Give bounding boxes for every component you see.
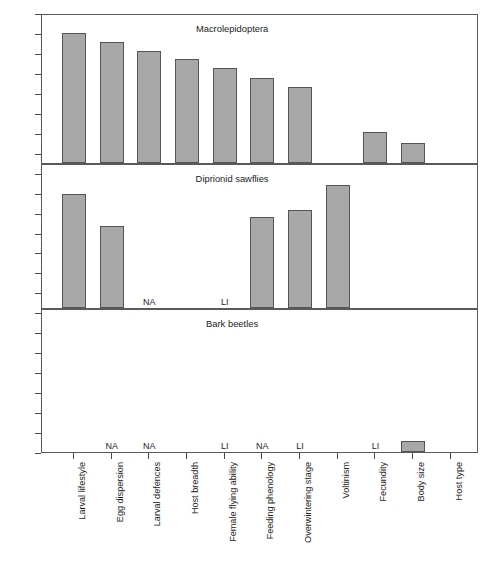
panel-macrolepidoptera: Macrolepidoptera [41,14,478,164]
plot-area-diprionid-sawflies: NALI [42,165,477,308]
x-axis-label: Fecundity [378,462,388,501]
x-axis-tick [186,453,187,459]
x-axis-tick [111,453,112,459]
x-axis-tick [412,453,413,459]
x-axis-tick [224,453,225,459]
x-axis-category-labels: Larval lifestyleEgg dispersionLarval def… [41,462,478,567]
chart-figure: Relative importance of trait in predicti… [0,0,492,569]
annotation-label: LI [372,441,380,451]
x-axis-label: Feeding phenology [265,462,275,539]
annotation-label: LI [221,441,229,451]
bar [288,87,312,163]
x-axis-label: Female flying ability [228,462,238,542]
panel-bark-beetles: NANALINALILI Bark beetles [41,309,478,453]
x-axis-label: Voltinism [341,462,351,498]
annotation-label: NA [143,441,156,451]
x-axis-ticks [41,453,478,460]
x-axis-tick [374,453,375,459]
bar [100,42,124,163]
annotation-label: NA [256,441,269,451]
bar [250,217,274,308]
x-axis-tick [450,453,451,459]
x-axis-tick [73,453,74,459]
x-axis-label: Overwintering stage [303,462,313,543]
bar [250,78,274,163]
annotation-label: LI [296,441,304,451]
panel-diprionid-sawflies: NALI Diprionid sawflies [41,164,478,309]
bar [175,59,199,163]
annotation-label: NA [105,441,118,451]
bar [363,132,387,163]
bar [288,210,312,308]
bar [213,68,237,163]
annotation-label: NA [143,297,156,307]
x-axis-tick [261,453,262,459]
plot-area-macrolepidoptera [42,15,477,163]
x-axis-tick [299,453,300,459]
x-axis-tick [337,453,338,459]
x-axis-label: Body size [416,462,426,501]
bar [62,33,86,163]
x-axis-label: Larval defences [152,462,162,526]
bar [100,226,124,308]
bar [326,185,350,308]
bar [401,143,425,163]
bar [62,194,86,308]
annotation-label: LI [221,297,229,307]
x-axis-label: Egg dispersion [115,462,125,522]
x-axis-tick [148,453,149,459]
panel-title-bark-beetles: Bark beetles [206,318,258,329]
x-axis-label: Host type [454,462,464,500]
x-axis-label: Host breadth [190,462,200,514]
bar [137,51,161,163]
panel-title-diprionid-sawflies: Diprionid sawflies [196,173,269,184]
plot-area-bark-beetles: NANALINALILI [42,310,477,452]
panel-title-macrolepidoptera: Macrolepidoptera [196,23,268,34]
bar [401,441,425,452]
x-axis-label: Larval lifestyle [77,462,87,520]
